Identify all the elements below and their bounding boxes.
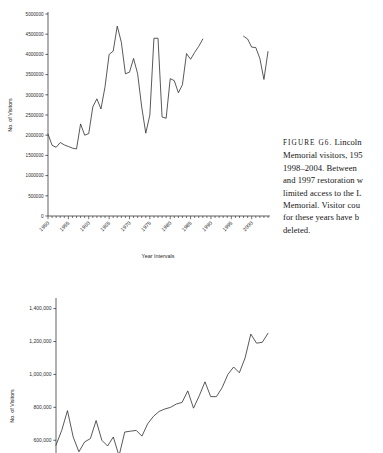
caption-line-0-text: Lincoln [335,137,362,147]
caption-line-2: 1998–2004. Between [283,162,383,174]
x-tick-label: 1965 [99,220,111,232]
y-axis-title: No. of Visitors [7,98,13,132]
y-tick-label: 1000000 [26,173,44,178]
x-tick-label: 1970 [119,220,131,232]
x-tick-label: 1980 [160,220,172,232]
y-tick-label: 3500000 [26,72,44,77]
x-tick-label: 1990 [201,220,213,232]
line-chart-top: 0500000100000015000002000000250000030000… [0,0,272,272]
x-tick-label: 1985 [180,220,192,232]
y-tick-label: 4000000 [26,52,44,57]
y-tick-label: 2500000 [26,113,44,118]
x-tick-label: 1955 [58,220,70,232]
data-line [56,333,268,453]
caption-line-1: Memorial visitors, 195 [283,149,383,161]
caption-line-0: FIGURE G6. Lincoln [283,136,383,149]
y-tick-label: 0 [41,214,44,219]
y-tick-label: 800,000 [33,404,51,410]
y-axis-title: No. of Visitors [9,389,15,423]
y-tick-label: 5000000 [26,12,44,17]
chart-visitors-secondary: 600,000800,0001,000,0001,200,0001,400,00… [0,288,272,453]
x-tick-label: 1995 [221,220,233,232]
figure-page: 0500000100000015000002000000250000030000… [0,0,383,453]
data-line-segment-0 [48,26,203,149]
y-tick-label: 500000 [28,194,44,199]
y-tick-label: 4500000 [26,32,44,37]
chart-lincoln-memorial-visitors: 0500000100000015000002000000250000030000… [0,0,272,272]
caption-line-6: for these years have b [283,211,383,223]
x-tick-label: 2000 [242,220,254,232]
y-tick-label: 600,000 [33,437,51,443]
y-tick-label: 1,000,000 [29,371,51,377]
caption-line-7: deleted. [283,224,383,236]
x-tick-label: 1975 [140,220,152,232]
line-chart-bottom: 600,000800,0001,000,0001,200,0001,400,00… [0,288,272,453]
x-tick-label: 1960 [79,220,91,232]
figure-caption: FIGURE G6. Lincoln Memorial visitors, 19… [283,136,383,236]
y-tick-label: 1,200,000 [29,338,51,344]
caption-line-4: limited access to the L [283,187,383,199]
caption-figure-label: FIGURE G6. [283,139,332,147]
x-axis-title: Year Intervals [142,253,175,259]
y-tick-label: 1500000 [26,153,44,158]
y-tick-label: 2000000 [26,133,44,138]
x-tick-label: 1950 [38,220,50,232]
y-tick-label: 1,400,000 [29,305,51,311]
caption-line-3: and 1997 restoration w [283,174,383,186]
caption-line-5: Memorial. Visitor cou [283,199,383,211]
data-line-segment-1 [244,36,268,79]
y-tick-label: 3000000 [26,93,44,98]
